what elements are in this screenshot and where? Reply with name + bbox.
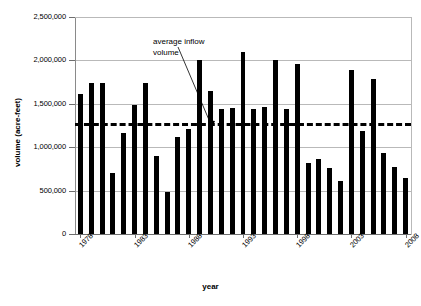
bar	[295, 64, 300, 234]
average-inflow-reference-line	[75, 123, 411, 126]
inflow-volume-bar-chart: volume (acre-feet) 2,500,0002,000,0001,5…	[0, 0, 421, 306]
bar	[273, 60, 278, 234]
y-tick-mark	[69, 234, 75, 235]
y-tick-label: 2,500,000	[6, 12, 66, 21]
x-axis-title: year	[0, 282, 421, 291]
bar	[392, 167, 397, 234]
bar	[121, 133, 126, 234]
bar	[403, 178, 408, 234]
annotation-leader-line	[140, 45, 220, 135]
bar	[251, 109, 256, 234]
y-tick-label: 2,000,000	[6, 55, 66, 64]
y-tick-label: 1,500,000	[6, 99, 66, 108]
bar	[100, 83, 105, 234]
bar	[110, 173, 115, 234]
bar	[154, 156, 159, 234]
x-tick-mark	[406, 234, 407, 238]
bar	[360, 131, 365, 234]
plot-right-border	[411, 17, 412, 234]
bar	[230, 108, 235, 234]
bar	[175, 137, 180, 234]
y-tick-label: 500,000	[6, 186, 66, 195]
y-tick-label: 0	[6, 229, 66, 238]
y-axis-title: volume (acre-feet)	[13, 68, 22, 198]
bar	[316, 159, 321, 234]
y-tick-label: 1,000,000	[6, 142, 66, 151]
bar	[284, 109, 289, 234]
bar	[89, 83, 94, 234]
bar	[241, 52, 246, 234]
bar	[349, 70, 354, 234]
bar	[371, 79, 376, 234]
bar	[78, 94, 83, 234]
bar	[262, 107, 267, 234]
bar	[186, 129, 191, 234]
bar	[381, 153, 386, 234]
bar	[165, 192, 170, 234]
x-tick-mark	[135, 234, 136, 238]
bar	[306, 163, 311, 234]
bar	[327, 168, 332, 234]
bar	[338, 181, 343, 234]
